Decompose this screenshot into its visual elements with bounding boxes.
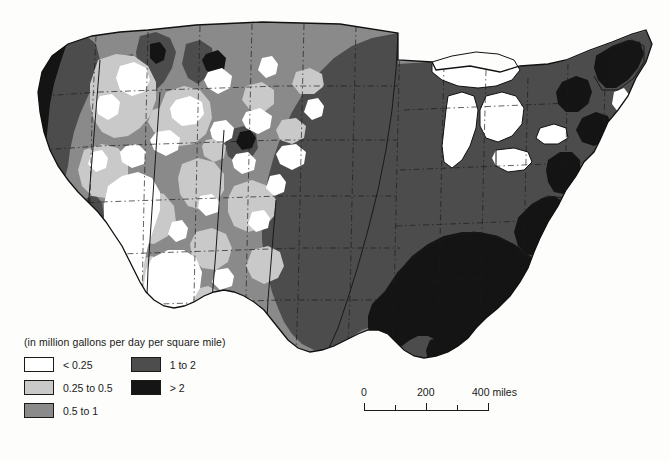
- legend-column-1: < 0.25 0.25 to 0.5 0.5 to 1: [24, 357, 113, 418]
- scale-tick-400: [488, 403, 489, 411]
- legend-item-lt-0p25[interactable]: < 0.25: [24, 357, 113, 372]
- legend-swatch-1-to-2: [131, 357, 161, 372]
- scale-tick-300: [457, 405, 458, 411]
- legend-label-0p25-to-0p5: 0.25 to 0.5: [63, 382, 113, 394]
- legend-title: (in million gallons per day per square m…: [24, 336, 226, 348]
- scale-bar: 0 200 400 miles: [364, 386, 504, 411]
- legend-column-2: 1 to 2 > 2: [131, 357, 196, 418]
- scale-rule: [364, 402, 504, 411]
- legend-swatch-0p5-to-1: [24, 403, 54, 418]
- legend-swatch-lt-0p25: [24, 357, 54, 372]
- scale-tick-label-200: 200: [417, 386, 435, 398]
- legend-label-1-to-2: 1 to 2: [170, 359, 196, 371]
- scale-labels: 0 200 400 miles: [364, 386, 504, 400]
- legend-item-0p25-to-0p5[interactable]: 0.25 to 0.5: [24, 380, 113, 395]
- legend-label-0p5-to-1: 0.5 to 1: [63, 405, 98, 417]
- legend-item-1-to-2[interactable]: 1 to 2: [131, 357, 196, 372]
- scale-tick-label-0: 0: [361, 386, 367, 398]
- legend-swatch-0p25-to-0p5: [24, 380, 54, 395]
- map-legend: (in million gallons per day per square m…: [24, 336, 226, 418]
- scale-tick-200: [426, 403, 427, 411]
- legend-label-gt-2: > 2: [170, 382, 185, 394]
- legend-label-lt-0p25: < 0.25: [63, 359, 93, 371]
- scale-tick-0: [364, 403, 365, 411]
- legend-item-gt-2[interactable]: > 2: [131, 380, 196, 395]
- legend-swatch-gt-2: [131, 380, 161, 395]
- map-figure: (in million gallons per day per square m…: [0, 0, 669, 461]
- legend-item-0p5-to-1[interactable]: 0.5 to 1: [24, 403, 113, 418]
- scale-tick-label-400: 400 miles: [472, 386, 517, 398]
- scale-tick-100: [395, 405, 396, 411]
